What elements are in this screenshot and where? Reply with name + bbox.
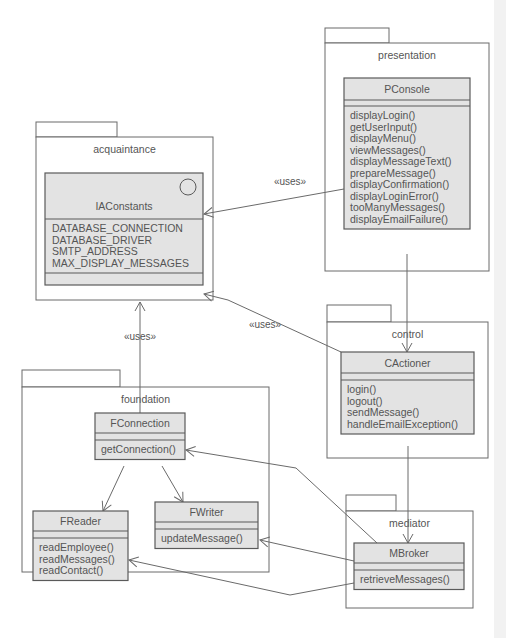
class-PConsole[interactable]: PConsoledisplayLogin()getUserInput()disp… bbox=[344, 78, 470, 229]
class-name: PConsole bbox=[384, 83, 430, 95]
class-method: displayMenu() bbox=[350, 132, 416, 144]
package-label: foundation bbox=[121, 393, 170, 405]
relation-PConsole-to-IAConstants[interactable]: «uses» bbox=[204, 176, 344, 214]
class-method: sendMessage() bbox=[347, 406, 419, 418]
class-method: readMessages() bbox=[39, 553, 115, 565]
class-FReader[interactable]: FReaderreadEmployee()readMessages()readC… bbox=[33, 511, 128, 581]
package-tab bbox=[325, 28, 389, 43]
class-CActioner[interactable]: CActionerlogin()logout()sendMessage()han… bbox=[341, 352, 474, 434]
relation-CActioner-to-IAConstants[interactable]: «uses» bbox=[204, 294, 341, 352]
class-name: FWriter bbox=[189, 506, 224, 518]
class-method: readEmployee() bbox=[39, 541, 114, 553]
package-tab bbox=[22, 370, 120, 387]
class-method: handleEmailException() bbox=[347, 418, 458, 430]
class-method: displayConfirmation() bbox=[350, 178, 449, 190]
class-method: updateMessage() bbox=[161, 532, 243, 544]
stereotype-label: «uses» bbox=[124, 331, 157, 342]
class-method: displayLogin() bbox=[350, 109, 415, 121]
class-method: getConnection() bbox=[101, 443, 176, 455]
stereotype-label: «uses» bbox=[274, 176, 307, 187]
class-method: readContact() bbox=[39, 564, 103, 576]
class-attribute: DATABASE_DRIVER bbox=[52, 234, 152, 246]
class-name: IAConstants bbox=[95, 200, 152, 212]
package-tab bbox=[36, 122, 117, 137]
class-method: tooManyMessages() bbox=[350, 201, 445, 213]
relation-MBroker-to-FWriter[interactable] bbox=[260, 540, 354, 561]
class-method: displayEmailFailure() bbox=[350, 213, 448, 225]
class-attribute: MAX_DISPLAY_MESSAGES bbox=[52, 257, 189, 269]
class-IAConstants[interactable]: IAConstantsDATABASE_CONNECTIONDATABASE_D… bbox=[45, 173, 203, 285]
class-method: retrieveMessages() bbox=[360, 573, 450, 585]
class-MBroker[interactable]: MBrokerretrieveMessages() bbox=[354, 543, 464, 590]
class-FConnection[interactable]: FConnectiongetConnection() bbox=[95, 413, 185, 460]
class-method: prepareMessage() bbox=[350, 167, 436, 179]
package-tab bbox=[346, 495, 396, 511]
class-attribute: DATABASE_CONNECTION bbox=[52, 222, 183, 234]
uml-package-diagram: presentationacquaintancecontrolfoundatio… bbox=[0, 0, 506, 638]
stereotype-label: «uses» bbox=[249, 319, 282, 330]
dependency-arrow bbox=[260, 540, 354, 561]
class-attribute: SMTP_ADDRESS bbox=[52, 245, 138, 257]
package-label: mediator bbox=[389, 517, 430, 529]
package-label: acquaintance bbox=[93, 143, 156, 155]
package-tab bbox=[327, 305, 391, 322]
class-method: logout() bbox=[347, 395, 383, 407]
class-method: viewMessages() bbox=[350, 144, 426, 156]
class-name: FReader bbox=[60, 515, 101, 527]
class-method: login() bbox=[347, 383, 376, 395]
dependency-arrow bbox=[204, 189, 344, 214]
class-name: MBroker bbox=[389, 547, 429, 559]
class-name: CActioner bbox=[384, 357, 431, 369]
class-method: displayMessageText() bbox=[350, 155, 452, 167]
package-label: presentation bbox=[378, 49, 436, 61]
class-method: getUserInput() bbox=[350, 121, 417, 133]
class-method: displayLoginError() bbox=[350, 190, 439, 202]
class-name: FConnection bbox=[110, 417, 170, 429]
class-FWriter[interactable]: FWriterupdateMessage() bbox=[155, 502, 258, 549]
